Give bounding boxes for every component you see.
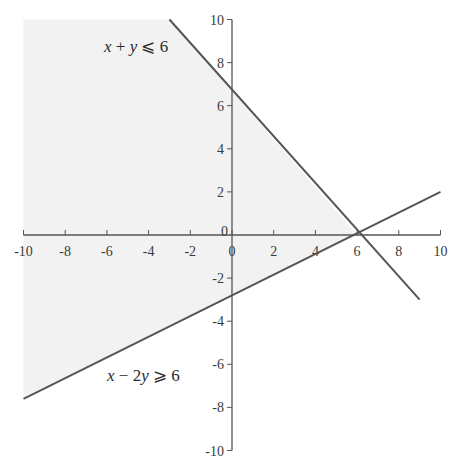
y-tick-label: 8 — [217, 56, 224, 71]
y-tick-label: 2 — [217, 185, 224, 200]
y-tick-label: -8 — [212, 400, 224, 415]
y-tick-label: -6 — [212, 357, 224, 372]
y-tick-label: 10 — [210, 13, 224, 28]
x-tick-label: 10 — [434, 244, 448, 259]
feasible-region-shading — [24, 20, 358, 399]
x-tick-label: -6 — [101, 244, 113, 259]
y-tick-label: -4 — [212, 314, 224, 329]
x-tick-label: 2 — [270, 244, 277, 259]
x-tick-label: -10 — [14, 244, 33, 259]
inequality-graph: -10-8-6-4-20246810-10-8-6-4-20246810 x +… — [0, 0, 457, 467]
x-tick-label: -4 — [143, 244, 155, 259]
inequality-label-2: x − 2y ⩾ 6 — [106, 366, 180, 385]
y-tick-label: 6 — [217, 99, 224, 114]
x-tick-label: 6 — [354, 244, 361, 259]
inequality-label-1: x + y ⩽ 6 — [103, 37, 168, 56]
x-tick-label: 8 — [395, 244, 402, 259]
x-tick-label: -8 — [59, 244, 71, 259]
x-tick-label: 0 — [229, 244, 236, 259]
x-tick-label: -2 — [184, 244, 196, 259]
y-tick-label: 4 — [217, 142, 224, 157]
y-tick-label: -10 — [205, 444, 224, 459]
y-tick-label: 0 — [221, 224, 228, 239]
y-tick-label: -2 — [212, 271, 224, 286]
x-tick-label: 4 — [312, 244, 319, 259]
